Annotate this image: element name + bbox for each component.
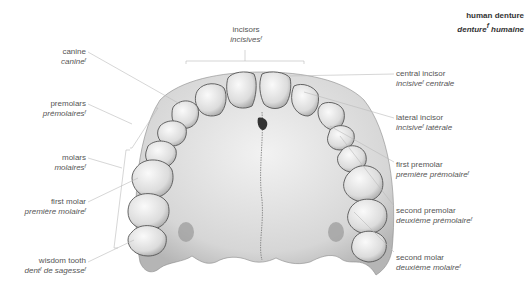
label-canine: canine caninef [61,47,86,67]
label-first-molar: first molar première molairef [25,197,86,217]
label-incisors: incisors incisivesf [218,25,274,45]
label-second-premolar: second premolar deuxième prémolairef [396,206,472,226]
label-central-incisor: central incisor incisivef centrale [396,69,454,89]
label-second-molar: second molar deuxième molairef [396,253,461,273]
label-first-premolar: first premolar première prémolairef [396,160,469,180]
label-premolars: premolars prémolairesf [43,99,86,119]
label-molars: molars molairesf [54,153,86,173]
label-wisdom-tooth: wisdom tooth dentf de sagessef [25,256,87,276]
label-lateral-incisor: lateral incisor incisivef latérale [396,113,452,133]
